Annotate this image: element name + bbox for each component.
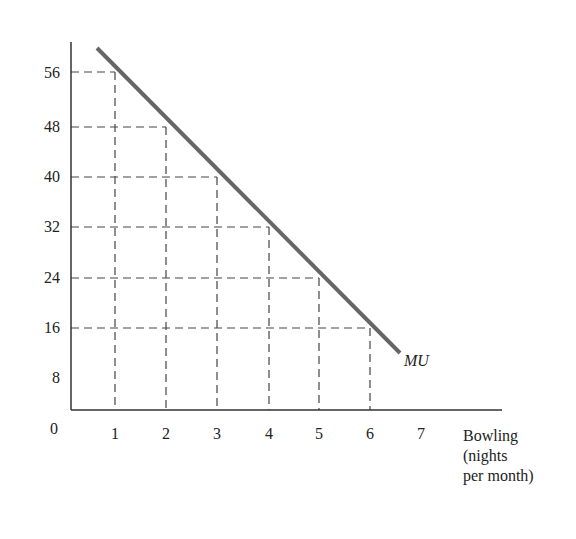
- x-axis-title-line3: per month): [463, 466, 534, 486]
- y-tick-16: 16: [20, 319, 60, 337]
- x-tick-3: 3: [207, 425, 227, 443]
- x-axis-title: Bowling (nights per month): [463, 426, 534, 486]
- x-tick-2: 2: [156, 425, 176, 443]
- origin-label: 0: [50, 420, 58, 438]
- x-tick-7: 7: [411, 425, 431, 443]
- y-tick-40: 40: [20, 168, 60, 186]
- y-tick-48: 48: [20, 118, 60, 136]
- mu-label: MU: [404, 352, 429, 370]
- y-tick-8: 8: [20, 369, 60, 387]
- x-tick-5: 5: [309, 425, 329, 443]
- x-tick-6: 6: [360, 425, 380, 443]
- y-tick-24: 24: [20, 269, 60, 287]
- y-tick-32: 32: [20, 218, 60, 236]
- y-tick-56: 56: [20, 64, 60, 82]
- mu-curve: [97, 48, 400, 353]
- x-tick-4: 4: [259, 425, 279, 443]
- dashed-guides: [71, 72, 370, 410]
- x-tick-1: 1: [105, 425, 125, 443]
- x-axis-title-line2: (nights: [463, 446, 534, 466]
- x-axis-title-line1: Bowling: [463, 426, 534, 446]
